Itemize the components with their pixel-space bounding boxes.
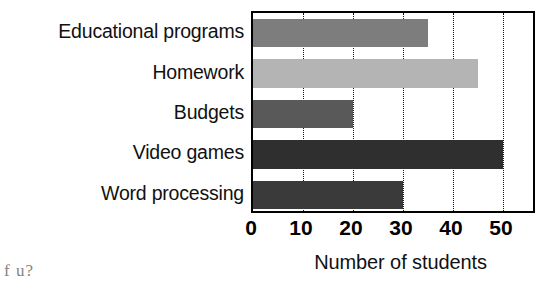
category-label: Word processing xyxy=(0,182,244,204)
category-label: Educational programs xyxy=(0,20,244,42)
bar xyxy=(253,181,403,209)
bar xyxy=(253,140,503,168)
x-tick-label: 30 xyxy=(389,216,412,240)
x-tick-label: 10 xyxy=(289,216,312,240)
bar-chart-figure: Educational programsHomeworkBudgetsVideo… xyxy=(0,0,550,282)
category-label: Homework xyxy=(0,61,244,83)
bar-series xyxy=(253,13,533,211)
x-tick-label: 40 xyxy=(439,216,462,240)
x-tick-label: 50 xyxy=(489,216,512,240)
plot-area xyxy=(251,11,535,213)
category-label: Budgets xyxy=(0,101,244,123)
x-axis-tick-labels: 01020304050 xyxy=(251,216,535,242)
scan-artifact-text: f u? xyxy=(4,261,34,280)
category-label: Video games xyxy=(0,141,244,163)
x-tick-label: 20 xyxy=(339,216,362,240)
bar xyxy=(253,19,428,47)
category-axis-labels: Educational programsHomeworkBudgetsVideo… xyxy=(0,11,244,213)
bar xyxy=(253,100,353,128)
x-tick-label: 0 xyxy=(245,216,257,240)
bar xyxy=(253,59,478,87)
x-axis-title: Number of students xyxy=(251,250,550,274)
